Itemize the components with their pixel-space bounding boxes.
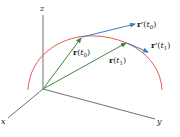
space-curve-diagram: z x y r(t0) r(t1) r′(t0) r′(t1): [0, 0, 180, 137]
position-vector-r-t0: [43, 38, 81, 89]
label-r-prime-t1: r′(t1): [151, 40, 170, 51]
label-r-t0: r(t0): [73, 47, 90, 58]
z-axis-label: z: [39, 4, 45, 13]
y-axis-label: y: [156, 117, 162, 126]
tangent-vector-r-prime-t0: [82, 24, 135, 37]
y-axis: [43, 89, 155, 119]
position-vector-r-t1: [43, 43, 126, 89]
x-axis: [8, 89, 43, 118]
label-r-prime-t0: r′(t0): [137, 19, 156, 30]
x-axis-label: x: [1, 117, 6, 126]
label-r-t1: r(t1): [109, 55, 126, 66]
tangent-vector-r-prime-t1: [127, 43, 148, 52]
